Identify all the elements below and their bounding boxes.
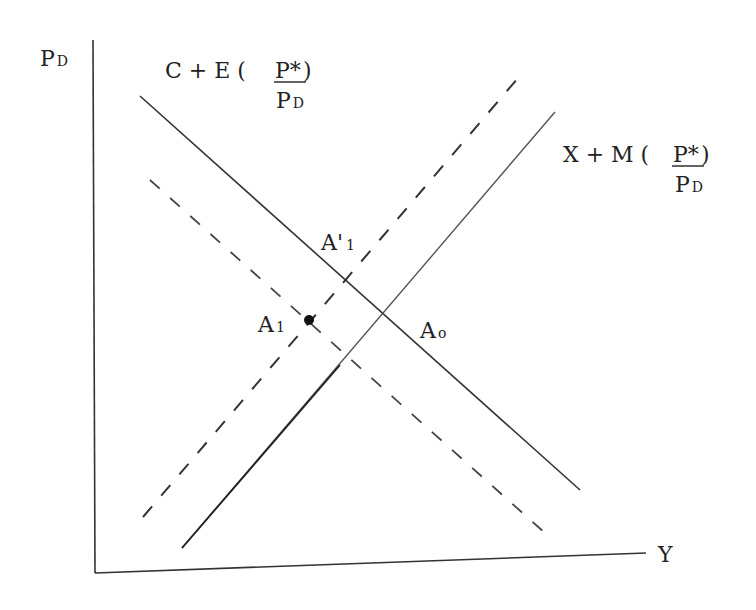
equilibrium-point-a1	[304, 315, 314, 325]
supply-curve-shifted	[143, 78, 518, 517]
point-label-a0: Ao	[419, 318, 446, 343]
demand-curve-shifted	[150, 180, 545, 533]
y-axis-label: PD	[40, 46, 68, 71]
supply-curve-label-numerator: P*	[673, 142, 699, 167]
demand-curve-label: C + E (	[165, 58, 246, 83]
supply-curve-label-close: )	[701, 142, 710, 167]
point-label-a1: A1	[257, 312, 285, 337]
supply-curve-label: X + M (	[563, 142, 649, 167]
point-label-a1-prime: A'1	[320, 230, 355, 255]
supply-curve-label-denominator: PD	[675, 172, 703, 197]
x-axis	[95, 553, 646, 573]
demand-curve-original	[140, 96, 580, 490]
y-axis	[93, 40, 95, 573]
diagram-canvas: PD Y C + E ( P* ) PD X + M ( P* ) PD A'1…	[0, 0, 756, 610]
demand-curve-label-close: )	[303, 58, 312, 83]
x-axis-label: Y	[657, 542, 673, 567]
demand-curve-label-denominator: PD	[276, 88, 304, 113]
demand-curve-label-numerator: P*	[275, 58, 301, 83]
supply-curve-original-lower	[182, 365, 340, 548]
